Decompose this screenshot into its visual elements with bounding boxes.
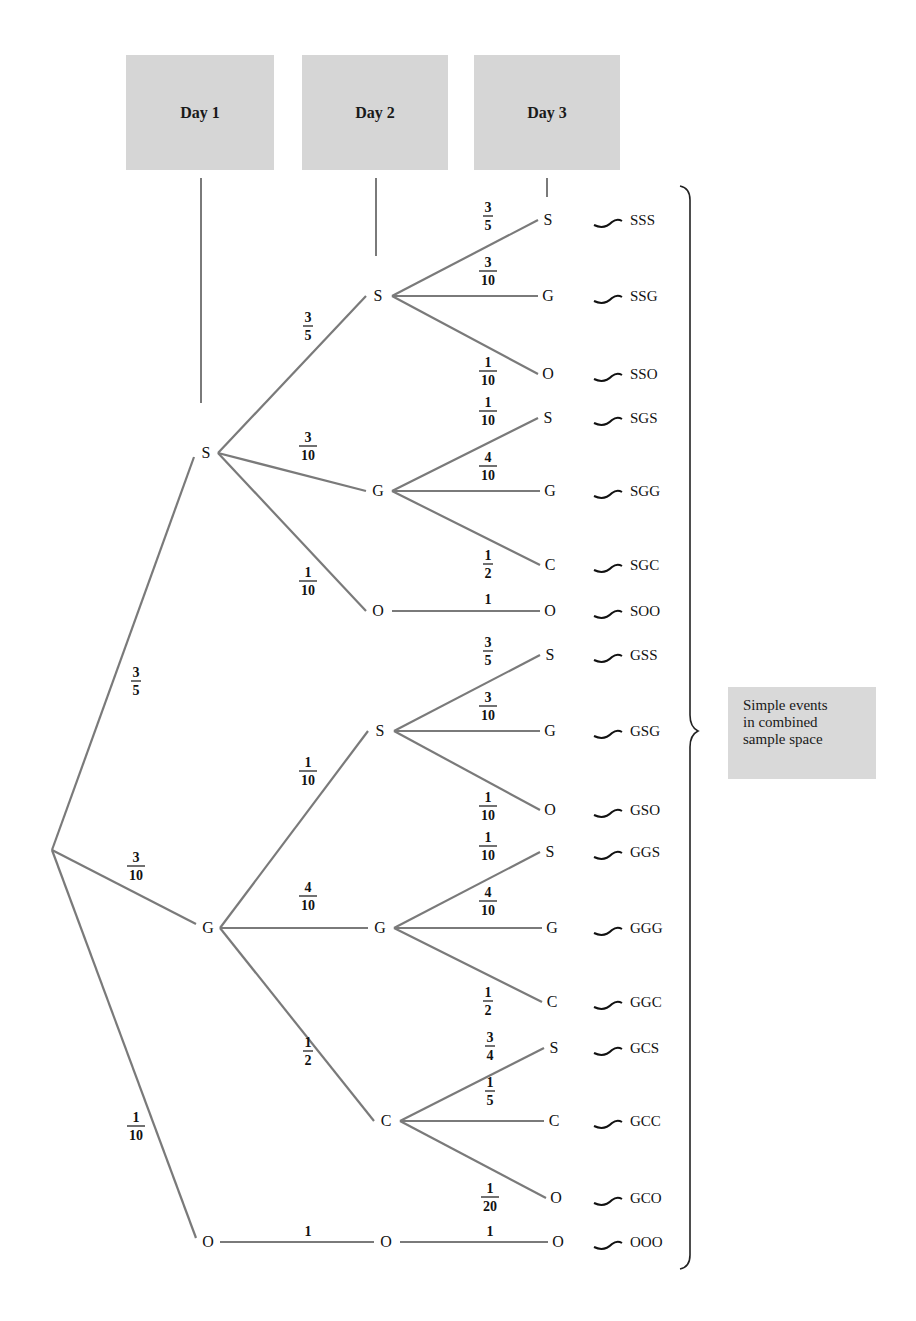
svg-text:10: 10 [481,373,495,388]
svg-text:1: 1 [305,1035,312,1050]
svg-text:10: 10 [301,448,315,463]
node-G: G [372,482,384,499]
node-O: O [544,602,556,619]
branch-line [218,453,366,611]
probability-label: 12 [483,548,493,581]
node-G: G [374,919,386,936]
tilde-icon [594,491,622,498]
svg-text:2: 2 [485,566,492,581]
probability-label: 15 [485,1075,495,1108]
outcome-SOO: SOO [630,603,660,619]
branch-line [220,731,368,928]
node-O: O [542,365,554,382]
tilde-icon [594,296,622,303]
note-line-2: in combined [743,714,876,731]
svg-text:10: 10 [481,848,495,863]
svg-text:2: 2 [485,1003,492,1018]
svg-text:1: 1 [133,1110,140,1125]
svg-text:2: 2 [305,1053,312,1068]
outcome-GCC: GCC [630,1113,661,1129]
node-O: O [550,1189,562,1206]
svg-text:10: 10 [481,273,495,288]
note-line-3: sample space [743,731,876,748]
svg-text:4: 4 [487,1048,494,1063]
probability-label: 12 [303,1035,313,1068]
tilde-icon [594,852,622,859]
outcome-list: SSSSSGSSOSGSSGGSGCSOOGSSGSGGSOGGSGGGGGCG… [594,212,663,1250]
svg-text:1: 1 [305,1224,312,1239]
svg-text:3: 3 [485,255,492,270]
probability-label: 410 [299,880,317,913]
probability-label: 35 [483,635,493,668]
svg-text:1: 1 [485,355,492,370]
outcome-GGC: GGC [630,994,662,1010]
svg-text:5: 5 [487,1093,494,1108]
outcome-OOO: OOO [630,1234,663,1250]
tilde-icon [594,220,622,227]
probability-label: 35 [303,310,313,343]
tilde-icon [594,1198,622,1205]
tilde-icon [594,611,622,618]
svg-text:10: 10 [481,468,495,483]
branch-line [220,928,374,1121]
branch-line [394,655,540,731]
tilde-icon [594,928,622,935]
svg-text:3: 3 [485,200,492,215]
branch-line [392,418,538,491]
simple-events-note: Simple events in combined sample space [728,687,876,779]
outcome-GGG: GGG [630,920,663,936]
probability-label: 110 [299,565,317,598]
svg-text:1: 1 [485,395,492,410]
probability-label: 110 [127,1110,145,1143]
branch-line [218,453,366,491]
svg-text:10: 10 [481,708,495,723]
svg-text:3: 3 [485,690,492,705]
tilde-icon [594,1002,622,1009]
svg-text:10: 10 [481,808,495,823]
branch-line [394,852,540,928]
node-C: C [547,993,558,1010]
probability-label: 310 [479,690,497,723]
branch-line [394,928,542,1002]
node-O: O [544,801,556,818]
probability-label: 410 [479,450,497,483]
node-G: G [544,482,556,499]
svg-text:10: 10 [129,868,143,883]
branch-line [52,457,194,850]
svg-text:4: 4 [485,450,492,465]
tilde-icon [594,1121,622,1128]
outcome-SGS: SGS [630,410,658,426]
probability-label: 1 [487,1224,494,1239]
node-O: O [380,1233,392,1250]
branch-line [400,1121,546,1198]
svg-text:4: 4 [305,880,312,895]
outcome-GSS: GSS [630,647,658,663]
outcome-GGS: GGS [630,844,660,860]
tilde-icon [594,731,622,738]
svg-text:10: 10 [481,413,495,428]
branch-line [394,731,540,810]
node-O: O [372,602,384,619]
probability-label: 35 [131,665,141,698]
probability-label: 1 [305,1224,312,1239]
node-G: G [544,722,556,739]
svg-text:10: 10 [301,583,315,598]
outcome-SSS: SSS [630,212,655,228]
node-S: S [546,646,555,663]
svg-text:1: 1 [487,1075,494,1090]
node-G: G [542,287,554,304]
svg-text:3: 3 [485,635,492,650]
probability-label: 110 [479,830,497,863]
svg-text:1: 1 [305,565,312,580]
tilde-icon [594,1048,622,1055]
svg-text:1: 1 [485,790,492,805]
branch-line [392,220,538,296]
svg-text:1: 1 [305,755,312,770]
tilde-icon [594,418,622,425]
probability-label: 35 [483,200,493,233]
tilde-icon [594,655,622,662]
day-header-1: Day 1 [126,55,274,170]
svg-text:5: 5 [305,328,312,343]
node-S: S [550,1039,559,1056]
outcome-SGC: SGC [630,557,659,573]
